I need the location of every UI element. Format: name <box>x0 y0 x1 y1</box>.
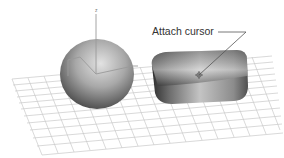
viewport-3d: z <box>0 0 284 158</box>
attach-cursor-label: Attach cursor <box>152 25 214 37</box>
z-axis-label: z <box>95 7 98 13</box>
